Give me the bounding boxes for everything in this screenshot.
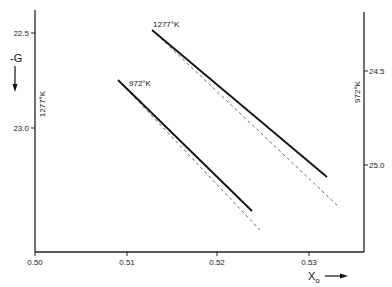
series-1277k-ideal-dashed [152,30,339,207]
left-tick-22-5: 22.5 [13,29,29,38]
series-972k-solid [118,80,252,211]
chart-canvas: 22.5 23.0 24.5 25.0 0.50 0.51 0.52 0.53 … [0,0,392,287]
x-tick-0-50: 0.50 [27,258,43,267]
y-axis-title: -G [10,52,22,92]
left-tick-23-0: 23.0 [13,124,29,133]
series-1277k-label: 1277°K [153,20,180,29]
left-axis-ticks: 22.5 23.0 [13,29,35,133]
arrowhead-down-icon [13,84,18,92]
y-title-text: -G [10,52,22,64]
arrowhead-right-icon [340,274,348,279]
left-axis-temp-label: 1277°K [38,90,47,117]
x-tick-0-53: 0.53 [301,258,317,267]
series-972k-label: 972°K [129,79,152,88]
x-tick-0-52: 0.52 [209,258,225,267]
x-tick-0-51: 0.51 [119,258,135,267]
x-axis-title: Xo [308,270,348,285]
right-axis-ticks: 24.5 25.0 [364,67,385,170]
right-tick-25-0: 25.0 [369,161,385,170]
right-axis-temp-label: 972°K [353,80,362,103]
x-axis-ticks: 0.50 0.51 0.52 0.53 [27,252,317,267]
series-1277k-solid [152,30,327,177]
right-tick-24-5: 24.5 [369,67,385,76]
x-title-main: Xo [308,270,320,285]
